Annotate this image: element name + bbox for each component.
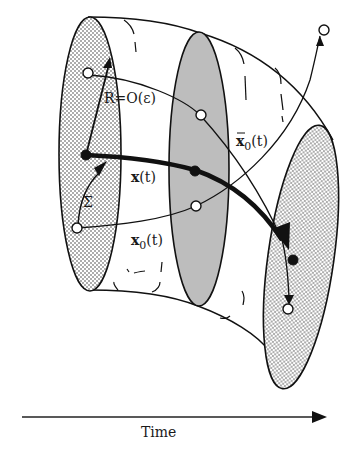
final-drop-point (283, 304, 293, 314)
x-end-point (288, 255, 298, 265)
x0-exit-point (319, 25, 329, 35)
time-label: Time (141, 424, 176, 440)
x0bar-start-point (83, 68, 93, 78)
x-main-label: x(t) (131, 169, 156, 185)
x0bar-label: x0(t) (236, 133, 268, 153)
x-mid-point (190, 166, 200, 176)
x0bar-mid-point (196, 110, 206, 120)
time-axis: Time (22, 411, 327, 440)
tube-diagram: R=O(ε) Σ x(t) x0(t) x0(t) Time (0, 0, 353, 462)
x0-start-point (72, 223, 82, 233)
x0-label: x0(t) (131, 232, 163, 252)
svg-text:x0(t): x0(t) (236, 133, 268, 153)
x0-mid-point (191, 201, 201, 211)
final-section-dotted (250, 121, 352, 394)
time-arrowhead-icon (312, 411, 327, 423)
radius-label: R=O(ε) (104, 90, 156, 106)
x-start-point (81, 150, 91, 160)
sigma-label: Σ (83, 194, 93, 210)
tube-bottom-edge (90, 290, 285, 387)
x0-arrowhead-icon (316, 36, 324, 46)
